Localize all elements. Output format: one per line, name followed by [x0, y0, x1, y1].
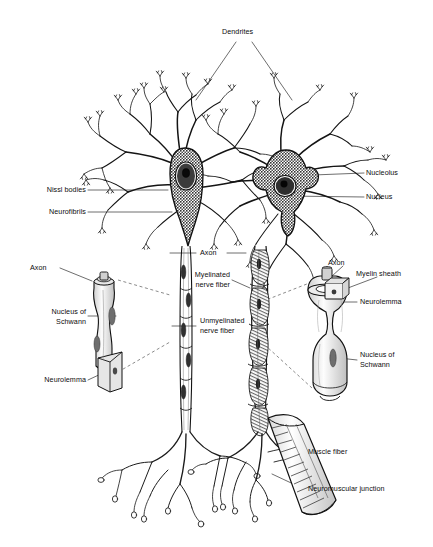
- label-nucleus-of-schwann-left-line2: Schwann: [8, 317, 86, 326]
- label-muscle-fiber: Muscle fiber: [308, 447, 347, 456]
- left-cell-body: [170, 148, 203, 246]
- label-axon-left-inset: Axon: [30, 263, 47, 272]
- label-myelin-sheath: Myelin sheath: [356, 269, 401, 278]
- label-unmyelinated-nerve-fiber-line1: Unmyelinated: [200, 316, 245, 325]
- neuron-diagram-figure: Dendrites Nissl bodies Neurofibrils Nucl…: [0, 0, 433, 547]
- label-axon-center: Axon: [200, 248, 217, 257]
- left-inset-unmyelinated-segment: [93, 272, 122, 392]
- label-neurolemma-right: Neurolemma: [360, 297, 402, 306]
- label-neuromuscular-junction: Neuromuscular junction: [308, 484, 385, 493]
- label-axon-right-inset: Axon: [328, 258, 345, 267]
- label-dendrites: Dendrites: [222, 27, 253, 36]
- label-nucleus-of-schwann-left-line1: Nucleus of: [8, 307, 86, 316]
- label-neurofibrils: Neurofibrils: [10, 207, 86, 216]
- muscle-fiber: [268, 415, 336, 515]
- label-nissl-bodies: Nissl bodies: [10, 185, 86, 194]
- label-myelinated-nerve-fiber-line2: nerve fiber: [172, 280, 230, 289]
- label-nucleolus: Nucleolus: [366, 168, 398, 177]
- right-cell-body: [253, 150, 318, 236]
- label-nucleus: Nucleus: [366, 192, 392, 201]
- myelinated-axon: [248, 246, 269, 436]
- label-nucleus-of-schwann-right-line1: Nucleus of: [360, 350, 394, 359]
- label-neurolemma-left: Neurolemma: [8, 375, 86, 384]
- label-unmyelinated-nerve-fiber-line2: nerve fiber: [200, 326, 235, 335]
- label-nucleus-of-schwann-right-line2: Schwann: [360, 360, 390, 369]
- right-inset-myelinated-segment: [308, 267, 349, 401]
- label-myelinated-nerve-fiber-line1: Myelinated: [172, 270, 230, 279]
